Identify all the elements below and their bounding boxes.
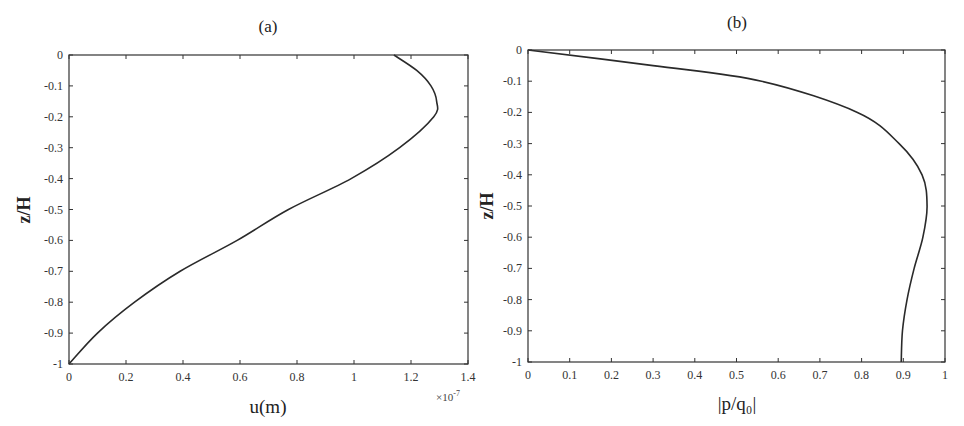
x-multiplier-a: ×10-7 (436, 389, 460, 403)
x-tick-label: 0.7 (812, 368, 827, 382)
x-axis-ticks-b: 00.10.20.30.40.50.60.70.80.91 (525, 50, 948, 382)
x-axis-label-b: |p/q₀| (718, 393, 757, 414)
axes-box-b (528, 50, 945, 362)
y-tick-label: -0.3 (503, 137, 522, 151)
y-tick-label: -0.5 (503, 199, 522, 213)
line-series-a (69, 55, 438, 364)
line-series-b (528, 50, 927, 362)
y-axis-ticks-a: 0-0.1-0.2-0.3-0.4-0.5-0.6-0.7-0.8-0.9-1 (44, 48, 468, 371)
x-tick-label: 0.6 (233, 370, 248, 384)
x-axis-label-a: u(m) (250, 396, 287, 418)
chart-title-b: (b) (727, 13, 747, 32)
x-tick-label: 0.8 (854, 368, 869, 382)
y-tick-label: -0.6 (44, 233, 63, 247)
x-tick-label: 1 (351, 370, 357, 384)
x-tick-label: 0.2 (604, 368, 619, 382)
y-tick-label: -1 (53, 357, 63, 371)
y-tick-label: -1 (512, 355, 522, 369)
x-tick-label: 0.2 (119, 370, 134, 384)
x-tick-label: 0.4 (687, 368, 702, 382)
x-tick-label: 0.3 (646, 368, 661, 382)
x-tick-label: 0.8 (290, 370, 305, 384)
y-axis-label-a: z/H (14, 197, 34, 224)
y-tick-label: -0.4 (503, 168, 522, 182)
y-tick-label: -0.1 (44, 79, 63, 93)
y-tick-label: -0.2 (503, 105, 522, 119)
x-tick-label: 1.4 (461, 370, 476, 384)
y-tick-label: 0 (516, 43, 522, 57)
x-tick-label: 0.5 (729, 368, 744, 382)
y-tick-label: -0.7 (44, 264, 63, 278)
figure: (a) 00.20.40.60.811.21.4 0-0.1-0.2-0.3-0… (0, 0, 964, 426)
y-tick-label: -0.5 (44, 203, 63, 217)
y-axis-label-b: z/H (477, 193, 497, 220)
data-line (69, 55, 438, 364)
y-tick-label: 0 (57, 48, 63, 62)
y-tick-label: -0.4 (44, 172, 63, 186)
x-tick-label: 0.4 (176, 370, 191, 384)
y-tick-label: -0.9 (503, 324, 522, 338)
axes-box-a (69, 55, 468, 364)
y-tick-label: -0.9 (44, 326, 63, 340)
y-axis-ticks-b: 0-0.1-0.2-0.3-0.4-0.5-0.6-0.7-0.8-0.9-1 (503, 43, 945, 369)
y-tick-label: -0.6 (503, 230, 522, 244)
y-tick-label: -0.8 (44, 295, 63, 309)
y-tick-label: -0.2 (44, 110, 63, 124)
data-line (528, 50, 927, 362)
chart-title-a: (a) (259, 17, 278, 36)
x-tick-label: 1.2 (404, 370, 419, 384)
y-tick-label: -0.7 (503, 261, 522, 275)
y-tick-label: -0.1 (503, 74, 522, 88)
chart-panel-a: (a) 00.20.40.60.811.21.4 0-0.1-0.2-0.3-0… (14, 17, 476, 418)
x-tick-label: 0.9 (896, 368, 911, 382)
y-tick-label: -0.8 (503, 293, 522, 307)
x-tick-label: 0 (66, 370, 72, 384)
chart-panel-b: (b) 00.10.20.30.40.50.60.70.80.91 0-0.1-… (477, 13, 948, 414)
x-tick-label: 0 (525, 368, 531, 382)
x-tick-label: 0.6 (771, 368, 786, 382)
x-tick-label: 1 (942, 368, 948, 382)
y-tick-label: -0.3 (44, 141, 63, 155)
x-tick-label: 0.1 (562, 368, 577, 382)
